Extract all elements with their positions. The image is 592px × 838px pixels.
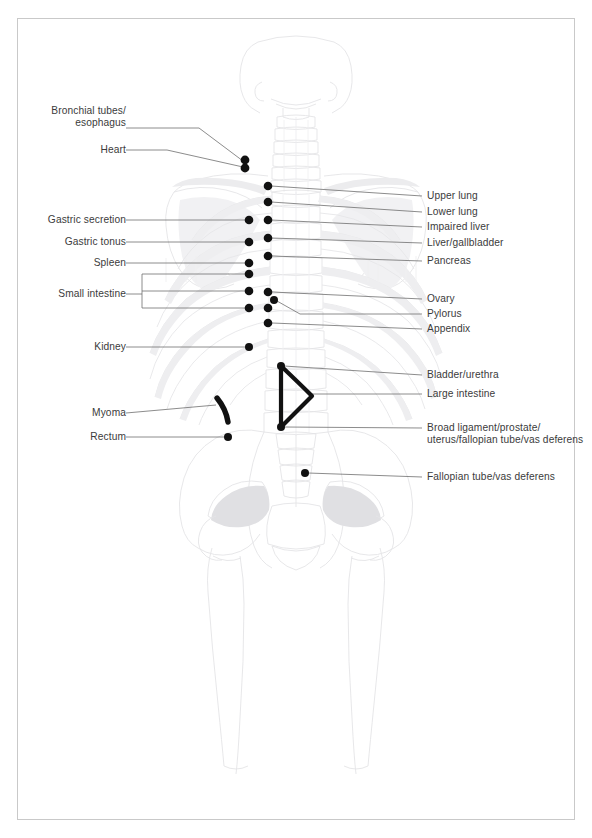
marker-fallopian-tube-vas-deferens bbox=[301, 469, 309, 477]
label-heart[interactable]: Heart bbox=[0, 144, 126, 156]
marker-large-intestine-triangle bbox=[281, 366, 312, 427]
leader-heart bbox=[126, 150, 243, 167]
marker-myoma-curve bbox=[217, 398, 228, 422]
leader-bladder-urethra bbox=[284, 366, 422, 375]
marker-heart bbox=[241, 164, 250, 173]
leader-bronchial-tubes-esophagus bbox=[126, 128, 243, 161]
leader-fallopian-tube-vas-deferens bbox=[308, 473, 422, 477]
label-bladder-urethra[interactable]: Bladder/urethra bbox=[427, 369, 499, 381]
label-ovary[interactable]: Ovary bbox=[427, 293, 455, 305]
leader-broad-ligament bbox=[284, 427, 422, 428]
label-pancreas[interactable]: Pancreas bbox=[427, 255, 471, 267]
label-line-2: uterus/fallopian tube/vas deferens bbox=[427, 434, 583, 445]
label-kidney[interactable]: Kidney bbox=[0, 341, 126, 353]
label-upper-lung[interactable]: Upper lung bbox=[427, 190, 478, 202]
marker-pancreas bbox=[264, 252, 273, 261]
marker-bladder-urethra bbox=[277, 362, 285, 370]
marker-lower-lung bbox=[264, 198, 273, 207]
label-appendix[interactable]: Appendix bbox=[427, 323, 470, 335]
marker-rectum bbox=[224, 433, 232, 441]
skull-outline bbox=[240, 36, 352, 120]
label-line-2: esophagus bbox=[75, 117, 126, 128]
marker-pylorus bbox=[270, 296, 278, 304]
label-line-1: Broad ligament/prostate/ bbox=[427, 422, 540, 433]
label-rectum[interactable]: Rectum bbox=[0, 431, 126, 443]
marker-ovary bbox=[264, 288, 273, 297]
marker-pylorus-lower bbox=[264, 304, 273, 313]
leader-myoma bbox=[126, 405, 216, 413]
label-bronchial-tubes-esophagus[interactable]: Bronchial tubes/esophagus bbox=[0, 105, 126, 130]
label-liver-gallbladder[interactable]: Liver/gallbladder bbox=[427, 237, 503, 249]
marker-gastric-secretion bbox=[245, 216, 254, 225]
label-spleen[interactable]: Spleen bbox=[0, 257, 126, 269]
marker-small-intestine-1 bbox=[245, 270, 254, 279]
skeleton-figure bbox=[150, 36, 442, 774]
marker-spleen bbox=[245, 259, 254, 268]
label-pylorus[interactable]: Pylorus bbox=[427, 308, 462, 320]
label-myoma[interactable]: Myoma bbox=[0, 407, 126, 419]
marker-impaired-liver bbox=[264, 216, 273, 225]
label-gastric-secretion[interactable]: Gastric secretion bbox=[0, 214, 126, 226]
label-line-1: Bronchial tubes/ bbox=[51, 105, 126, 116]
marker-kidney bbox=[245, 343, 253, 351]
thoracic-lumbar-spine bbox=[264, 190, 328, 436]
marker-small-intestine-2 bbox=[245, 287, 254, 296]
label-impaired-liver[interactable]: Impaired liver bbox=[427, 221, 490, 233]
pelvis bbox=[179, 430, 412, 570]
marker-bronchial-esophagus bbox=[241, 156, 250, 165]
figure-page: Bronchial tubes/esophagus Heart Gastric … bbox=[0, 0, 592, 838]
marker-liver-gallbladder bbox=[264, 234, 273, 243]
cervical-spine bbox=[271, 115, 321, 195]
label-fallopian-tube-vas-deferens[interactable]: Fallopian tube/vas deferens bbox=[427, 471, 555, 483]
label-broad-ligament[interactable]: Broad ligament/prostate/uterus/fallopian… bbox=[427, 422, 583, 447]
label-lower-lung[interactable]: Lower lung bbox=[427, 206, 478, 218]
marker-upper-lung bbox=[264, 182, 273, 191]
marker-broad-ligament bbox=[277, 423, 285, 431]
label-gastric-tonus[interactable]: Gastric tonus bbox=[0, 236, 126, 248]
marker-small-intestine-3 bbox=[245, 304, 254, 313]
marker-appendix bbox=[264, 319, 273, 328]
label-large-intestine[interactable]: Large intestine bbox=[427, 388, 495, 400]
marker-gastric-tonus bbox=[245, 238, 254, 247]
label-small-intestine[interactable]: Small intestine bbox=[0, 288, 126, 300]
